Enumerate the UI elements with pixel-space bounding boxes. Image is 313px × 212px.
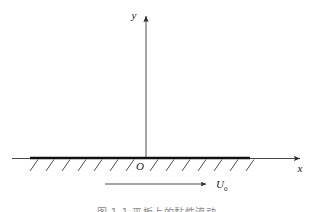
figure-container: y x O U0 图 1-1 平板上的黏性流动: [0, 0, 313, 212]
velocity-subscript: 0: [224, 185, 228, 193]
velocity-label: U0: [216, 178, 228, 193]
coordinate-diagram-svg: y x O U0: [0, 0, 313, 212]
origin-label: O: [136, 160, 144, 172]
y-axis-label: y: [131, 9, 137, 21]
x-axis-label: x: [297, 162, 303, 174]
figure-caption-strip: 图 1-1 平板上的黏性流动: [0, 201, 313, 212]
figure-caption: 图 1-1 平板上的黏性流动: [97, 207, 217, 212]
